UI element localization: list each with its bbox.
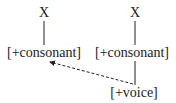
spreading-arrow	[50, 62, 133, 84]
x-slot-right: X	[130, 6, 140, 20]
voice-feature: [+voice]	[110, 86, 158, 100]
autosegmental-diagram: X X [+consonant] [+consonant] [+voice]	[0, 0, 176, 103]
consonant-feature-left: [+consonant]	[7, 46, 81, 60]
consonant-feature-right: [+consonant]	[95, 46, 169, 60]
x-slot-left: X	[39, 6, 49, 20]
